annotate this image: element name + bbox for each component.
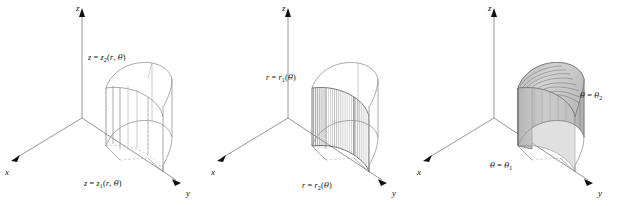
axes-group xyxy=(11,8,181,186)
cylindrical-coordinates-figure: z x y z = z2(r, θ) z = z1(r, θ) xyxy=(0,0,619,206)
theta-bounds-panel: z x y θ = θ2 θ = θ1 xyxy=(412,0,618,206)
y-axis-label: y xyxy=(185,188,190,198)
z-bounds-panel: z x y z = z2(r, θ) z = z1(r, θ) xyxy=(0,0,206,206)
z-lower-surface-label: z = z1(r, θ) xyxy=(84,178,122,188)
y-axis-label: y xyxy=(391,188,396,198)
z-axis-label: z xyxy=(75,3,80,13)
solid-shaded xyxy=(518,55,584,172)
z-axis-label: z xyxy=(487,3,492,13)
r-inner-surface-label: r = r1(θ) xyxy=(266,72,296,82)
x-axis-label: x xyxy=(416,167,421,177)
r-outer-surface-label: r = r2(θ) xyxy=(302,180,332,190)
z-upper-surface-label: z = z2(r, θ) xyxy=(88,52,126,62)
x-axis-label: x xyxy=(4,167,9,177)
x-axis-label: x xyxy=(210,167,215,177)
y-axis-label: y xyxy=(597,188,602,198)
solid-wireframe xyxy=(306,62,378,180)
theta-upper-surface-label: θ = θ2 xyxy=(580,90,603,100)
theta-lower-surface-label: θ = θ1 xyxy=(490,160,513,170)
r-bounds-panel: z x y r = r1(θ) r = r2(θ) xyxy=(206,0,412,206)
z-axis-label: z xyxy=(281,3,286,13)
